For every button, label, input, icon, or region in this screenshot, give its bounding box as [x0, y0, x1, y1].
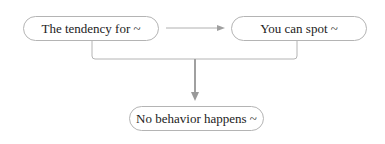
node-you-can-spot: You can spot ~ — [231, 16, 367, 41]
node-label: The tendency for ~ — [41, 21, 140, 37]
node-label: No behavior happens ~ — [136, 111, 257, 127]
node-no-behavior: No behavior happens ~ — [129, 106, 264, 131]
arrowhead-icon — [217, 25, 225, 31]
arrowhead-down-icon — [191, 92, 199, 101]
merge-bracket — [92, 40, 297, 59]
node-tendency: The tendency for ~ — [23, 16, 159, 41]
node-label: You can spot ~ — [260, 21, 338, 37]
